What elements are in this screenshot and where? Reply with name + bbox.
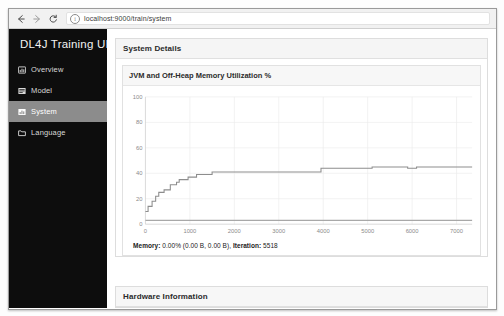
screenshot-root: i localhost:9000/train/system DL4J Train… xyxy=(0,0,504,316)
svg-text:20: 20 xyxy=(136,196,143,202)
language-folder-icon xyxy=(18,129,26,137)
memory-value: 0.00% (0.00 B, 0.00 B), xyxy=(162,242,231,249)
memory-chart-title: JVM and Off-Heap Memory Utilization % xyxy=(123,66,480,86)
browser-window: i localhost:9000/train/system DL4J Train… xyxy=(8,8,497,310)
system-bars-icon xyxy=(18,108,26,116)
svg-text:6000: 6000 xyxy=(406,228,420,234)
iteration-value: 5518 xyxy=(263,242,278,249)
svg-text:3000: 3000 xyxy=(272,228,286,234)
svg-text:100: 100 xyxy=(133,94,143,100)
iteration-label: Iteration: xyxy=(233,242,261,249)
svg-text:60: 60 xyxy=(136,145,143,151)
sidebar-item-label: System xyxy=(31,107,57,116)
hardware-information-panel: Hardware Information xyxy=(115,286,488,308)
sidebar-item-system[interactable]: System xyxy=(9,101,107,122)
address-bar[interactable]: i localhost:9000/train/system xyxy=(66,12,490,25)
overview-chart-icon xyxy=(18,66,26,74)
info-icon[interactable]: i xyxy=(70,14,80,24)
back-arrow-icon[interactable] xyxy=(13,11,29,27)
memory-chart-svg: 0204060801000100020003000400050006000700… xyxy=(127,91,476,239)
svg-text:1000: 1000 xyxy=(183,228,197,234)
system-details-panel: System Details JVM and Off-Heap Memory U… xyxy=(115,38,488,257)
sidebar-item-overview[interactable]: Overview xyxy=(9,59,107,80)
reload-icon[interactable] xyxy=(45,11,61,27)
memory-label: Memory: xyxy=(133,242,160,249)
svg-text:2000: 2000 xyxy=(228,228,242,234)
sidebar-item-label: Model xyxy=(31,86,52,95)
browser-toolbar: i localhost:9000/train/system xyxy=(9,9,496,29)
app-title: DL4J Training UI xyxy=(9,29,107,59)
svg-text:0: 0 xyxy=(139,221,143,227)
svg-text:7000: 7000 xyxy=(450,228,464,234)
main-content: System Details JVM and Off-Heap Memory U… xyxy=(107,29,496,308)
sidebar-item-label: Overview xyxy=(31,65,63,74)
svg-text:0: 0 xyxy=(144,228,148,234)
hardware-information-title: Hardware Information xyxy=(116,287,487,307)
memory-chart-panel: JVM and Off-Heap Memory Utilization % 02… xyxy=(122,65,481,256)
system-details-body: JVM and Off-Heap Memory Utilization % 02… xyxy=(116,65,487,256)
svg-text:40: 40 xyxy=(136,170,143,176)
forward-arrow-icon[interactable] xyxy=(29,11,45,27)
svg-text:5000: 5000 xyxy=(361,228,375,234)
memory-status-line: Memory: 0.00% (0.00 B, 0.00 B), Iteratio… xyxy=(123,241,480,255)
url-text: localhost:9000/train/system xyxy=(84,15,172,22)
page-content: DL4J Training UI Overview xyxy=(9,29,496,308)
svg-text:80: 80 xyxy=(136,119,143,125)
memory-chart[interactable]: 0204060801000100020003000400050006000700… xyxy=(123,86,480,241)
sidebar: DL4J Training UI Overview xyxy=(9,29,107,308)
system-details-title: System Details xyxy=(116,39,487,59)
sidebar-item-label: Language xyxy=(31,128,66,137)
sidebar-item-language[interactable]: Language xyxy=(9,122,107,143)
svg-text:4000: 4000 xyxy=(317,228,331,234)
sidebar-item-model[interactable]: Model xyxy=(9,80,107,101)
model-layers-icon xyxy=(18,87,26,95)
